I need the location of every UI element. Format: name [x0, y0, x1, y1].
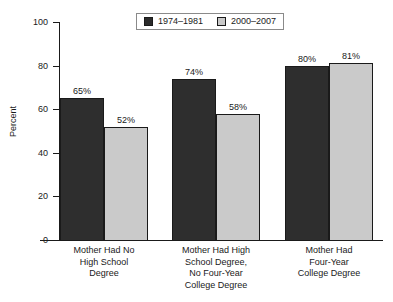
y-tick-80: [53, 66, 59, 67]
x-category-label-2-line-2: School Degree,: [156, 257, 276, 269]
bar-value-group2-series2: 58%: [216, 103, 260, 112]
bar-value-group2-series1: 74%: [172, 68, 216, 77]
y-tick-label-40: 40: [8, 149, 48, 158]
y-tick-label-20: 20: [8, 192, 48, 201]
bar-group1-series1[interactable]: [60, 98, 104, 241]
bar-group3-series1[interactable]: [285, 66, 329, 241]
y-tick-40: [53, 153, 59, 154]
legend-label-2: 2000–2007: [231, 17, 276, 26]
bar-group2-series1[interactable]: [172, 79, 216, 241]
x-category-label-3-line-2: Four-Year: [269, 257, 389, 269]
bar-chart: 1974–1981 2000–2007 Percent 0 20 40 60 8…: [0, 0, 393, 302]
bar-value-group3-series1: 80%: [285, 55, 329, 64]
light-swatch-icon: [217, 17, 226, 26]
x-category-label-1: Mother Had No High School Degree: [44, 245, 164, 280]
y-axis-title: Percent: [9, 92, 18, 152]
y-tick-label-100: 100: [8, 18, 48, 27]
x-category-label-1-line-1: Mother Had No: [44, 245, 164, 257]
legend-label-1: 1974–1981: [158, 17, 203, 26]
x-category-label-3-line-1: Mother Had: [269, 245, 389, 257]
bar-value-group1-series1: 65%: [60, 87, 104, 96]
x-category-label-2: Mother Had High School Degree, No Four-Y…: [156, 245, 276, 291]
bar-value-group3-series2: 81%: [329, 52, 373, 61]
chart-legend: 1974–1981 2000–2007: [136, 13, 284, 30]
y-tick-label-0: 0: [8, 236, 48, 245]
x-category-label-1-line-3: Degree: [44, 268, 164, 280]
y-tick-20: [53, 196, 59, 197]
y-tick-label-80: 80: [8, 62, 48, 71]
y-tick-60: [53, 109, 59, 110]
x-category-label-3: Mother Had Four-Year College Degree: [269, 245, 389, 280]
bar-group1-series2[interactable]: [104, 127, 148, 241]
y-tick-0: [53, 240, 59, 241]
x-category-label-3-line-3: College Degree: [269, 268, 389, 280]
legend-item-2000-2007: 2000–2007: [217, 17, 276, 26]
x-category-label-2-line-1: Mother Had High: [156, 245, 276, 257]
x-category-label-2-line-3: No Four-Year: [156, 268, 276, 280]
dark-swatch-icon: [144, 17, 153, 26]
y-tick-100: [53, 22, 59, 23]
x-category-label-2-line-4: College Degree: [156, 280, 276, 292]
bar-value-group1-series2: 52%: [104, 116, 148, 125]
legend-item-1974-1981: 1974–1981: [144, 17, 203, 26]
bar-group3-series2[interactable]: [329, 63, 373, 241]
bar-group2-series2[interactable]: [216, 114, 260, 241]
x-category-label-1-line-2: High School: [44, 257, 164, 269]
y-tick-label-60: 60: [8, 105, 48, 114]
